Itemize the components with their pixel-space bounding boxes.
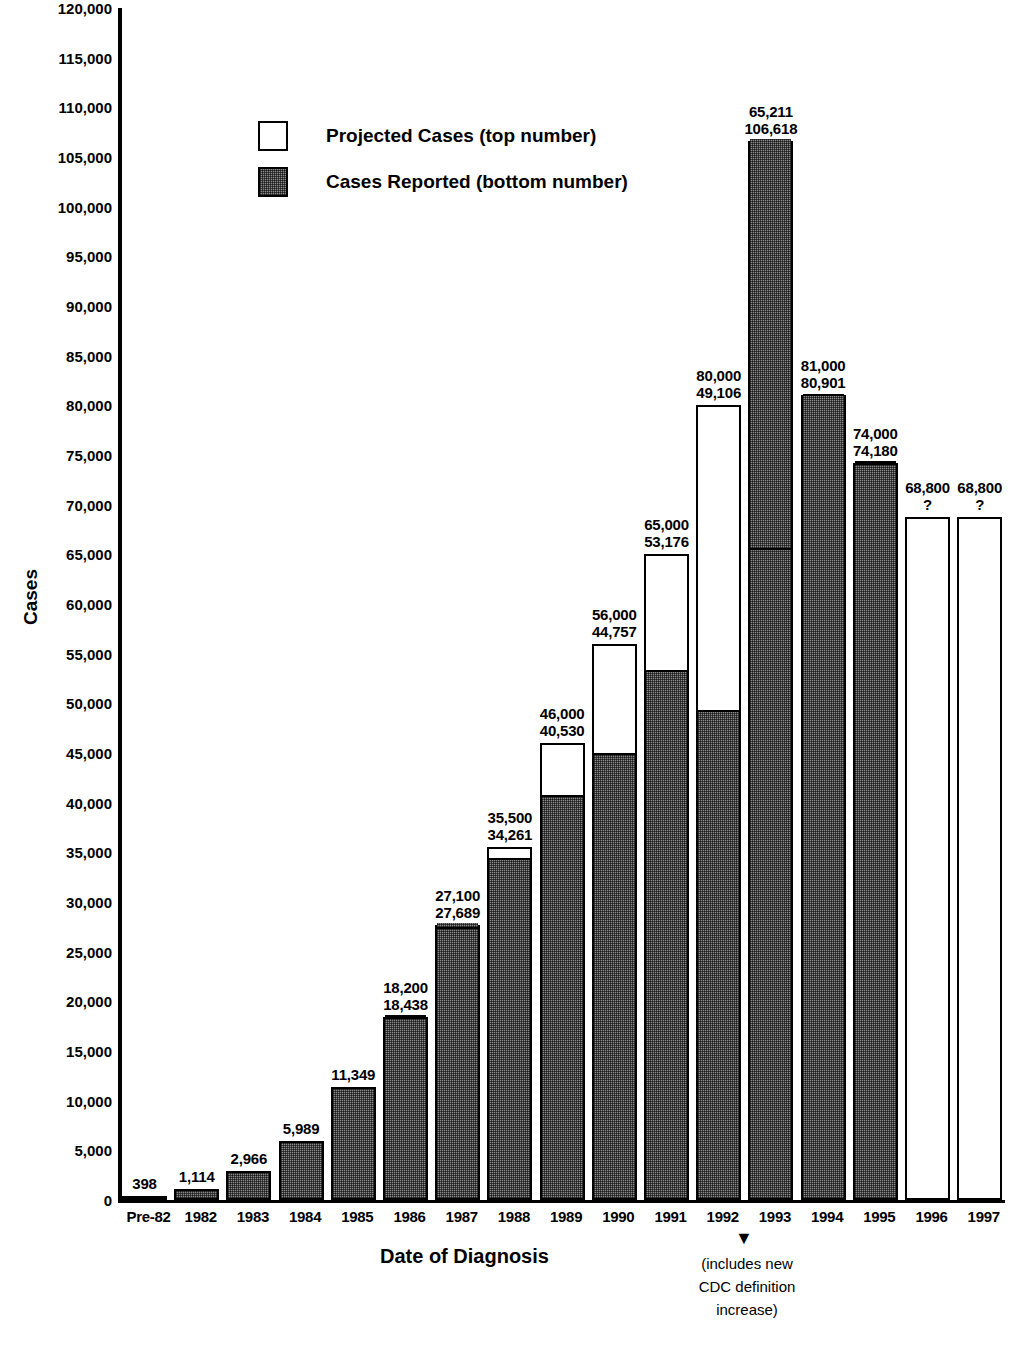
bar-1990[interactable]: 56,00044,757 — [592, 644, 637, 1200]
y-axis-tick-40000: 40,000 — [0, 796, 112, 811]
y-axis-tick-105000: 105,000 — [0, 150, 112, 165]
bar-1983[interactable]: 2,966 — [226, 1171, 271, 1200]
bar-reported-segment-1994 — [803, 394, 844, 1198]
bar-1992[interactable]: 80,00049,106 — [696, 405, 741, 1200]
bar-value-label-1992: 80,00049,106 — [696, 367, 741, 401]
bar-outline-1986 — [383, 1017, 428, 1200]
y-axis-tick-65000: 65,000 — [0, 547, 112, 562]
y-axis-tick-85000: 85,000 — [0, 349, 112, 364]
y-axis-tick-90000: 90,000 — [0, 299, 112, 314]
bar-value-label-1983: 2,966 — [231, 1150, 268, 1167]
bar-projected-divider-1987 — [437, 927, 478, 929]
bar-reported-segment-1989 — [542, 795, 583, 1198]
bar-outline-1991 — [644, 554, 689, 1200]
y-axis-tick-15000: 15,000 — [0, 1044, 112, 1059]
y-axis-tick-30000: 30,000 — [0, 895, 112, 910]
y-axis-tick-10000: 10,000 — [0, 1094, 112, 1109]
bar-reported-segment-1984 — [281, 1143, 322, 1198]
bar-value-label-1982: 1,114 — [179, 1168, 215, 1185]
y-axis-title: Cases — [20, 552, 42, 642]
y-axis-tick-50000: 50,000 — [0, 696, 112, 711]
bar-outline-pre-82 — [122, 1196, 167, 1200]
bar-1996[interactable]: 68,800? — [905, 517, 950, 1200]
bar-reported-segment-1995 — [855, 465, 896, 1198]
bar-reported-segment-1991 — [646, 670, 687, 1198]
bar-outline-1997 — [957, 517, 1002, 1200]
bar-1989[interactable]: 46,00040,530 — [540, 743, 585, 1200]
bar-outline-1987 — [435, 925, 480, 1200]
bar-1986[interactable]: 18,20018,438 — [383, 1017, 428, 1200]
bar-reported-segment-1983 — [228, 1173, 269, 1198]
bar-outline-1985 — [331, 1087, 376, 1200]
bar-value-label-1984: 5,989 — [283, 1120, 320, 1137]
bar-outline-1993 — [748, 141, 793, 1200]
chart-figure: 120,000115,000110,000105,000100,00095,00… — [0, 0, 1017, 1355]
bar-value-label-1994: 81,00080,901 — [801, 357, 846, 391]
y-axis-tick-75000: 75,000 — [0, 448, 112, 463]
bar-value-label-1986: 18,20018,438 — [383, 979, 428, 1013]
y-axis-tick-80000: 80,000 — [0, 398, 112, 413]
bar-value-label-1997: 68,800? — [957, 479, 1002, 513]
bar-1988[interactable]: 35,50034,261 — [487, 847, 532, 1200]
y-axis-tick-25000: 25,000 — [0, 945, 112, 960]
bar-1991[interactable]: 65,00053,176 — [644, 554, 689, 1200]
bar-value-label-1995: 74,00074,180 — [853, 425, 898, 459]
y-axis-tick-100000: 100,000 — [0, 200, 112, 215]
bar-outline-1995 — [853, 463, 898, 1200]
x-axis-title: Date of Diagnosis — [380, 1245, 549, 1268]
bar-outline-1983 — [226, 1171, 271, 1200]
bar-outline-1996 — [905, 517, 950, 1200]
bar-1997[interactable]: 68,800? — [957, 517, 1002, 1200]
bar-value-label-1989: 46,00040,530 — [540, 705, 585, 739]
bar-outline-1984 — [279, 1141, 324, 1200]
y-axis-tick-110000: 110,000 — [0, 100, 112, 115]
bar-1982[interactable]: 1,114 — [174, 1189, 219, 1200]
y-axis-tick-5000: 5,000 — [0, 1143, 112, 1158]
bar-reported-segment-1986 — [385, 1019, 426, 1198]
bar-1993[interactable]: 65,211106,618 — [748, 141, 793, 1200]
bar-reported-segment-1985 — [333, 1089, 374, 1198]
bar-reported-segment-1988 — [489, 858, 530, 1198]
bar-1987[interactable]: 27,10027,689 — [435, 925, 480, 1200]
bar-reported-segment-1987 — [437, 927, 478, 1198]
bar-reported-segment-1990 — [594, 753, 635, 1198]
x-axis-tick-1997: 1997 — [944, 1208, 1017, 1225]
bar-1985[interactable]: 11,349 — [331, 1087, 376, 1200]
y-axis-tick-115000: 115,000 — [0, 51, 112, 66]
bar-value-label-1990: 56,00044,757 — [592, 606, 637, 640]
y-axis-tick-35000: 35,000 — [0, 845, 112, 860]
bar-value-label-1991: 65,00053,176 — [644, 516, 689, 550]
bar-projected-divider-1986 — [385, 1015, 426, 1017]
y-axis-tick-55000: 55,000 — [0, 647, 112, 662]
bar-value-label-1988: 35,50034,261 — [488, 809, 533, 843]
bar-1984[interactable]: 5,989 — [279, 1141, 324, 1200]
bar-projected-divider-1993 — [750, 548, 791, 550]
bar-outline-1994 — [801, 395, 846, 1200]
bar-outline-1990 — [592, 644, 637, 1200]
bar-reported-overlay-1993 — [750, 139, 791, 550]
bar-reported-segment-1982 — [176, 1191, 217, 1198]
bar-value-label-1993: 65,211106,618 — [744, 103, 797, 137]
cdc-annotation-text: (includes new CDC definition increase) — [672, 1252, 822, 1321]
bar-1995[interactable]: 74,00074,180 — [853, 463, 898, 1200]
x-axis-line — [118, 1200, 1005, 1203]
cdc-annotation-arrow-icon: ▼ — [735, 1232, 753, 1244]
bar-value-label-1996: 68,800? — [905, 479, 950, 513]
bar-pre-82[interactable]: 398 — [122, 1196, 167, 1200]
y-axis-tick-70000: 70,000 — [0, 498, 112, 513]
bar-value-label-1987: 27,10027,689 — [435, 887, 480, 921]
plot-area: 3981,1142,9665,98911,34918,20018,43827,1… — [118, 8, 1005, 1200]
bar-outline-1992 — [696, 405, 741, 1200]
bar-1994[interactable]: 81,00080,901 — [801, 395, 846, 1200]
y-axis-tick-60000: 60,000 — [0, 597, 112, 612]
bar-reported-segment-1992 — [698, 710, 739, 1198]
bar-value-label-1985: 11,349 — [331, 1066, 375, 1083]
y-axis-tick-0: 0 — [0, 1193, 112, 1208]
bar-outline-1988 — [487, 847, 532, 1200]
y-axis-tick-20000: 20,000 — [0, 994, 112, 1009]
y-axis-tick-95000: 95,000 — [0, 249, 112, 264]
bar-projected-divider-1995 — [855, 461, 896, 463]
bar-outline-1982 — [174, 1189, 219, 1200]
y-axis-tick-45000: 45,000 — [0, 746, 112, 761]
y-axis-tick-120000: 120,000 — [0, 1, 112, 16]
